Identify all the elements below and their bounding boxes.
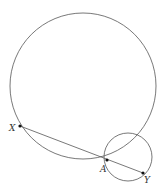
point-a (105, 158, 108, 161)
point-x (18, 124, 21, 127)
small-circle (104, 133, 152, 181)
label-a: A (99, 164, 107, 174)
label-x: X (8, 123, 16, 133)
geometry-diagram: X A Y (0, 0, 162, 192)
large-circle (10, 13, 156, 159)
label-y: Y (144, 175, 151, 185)
